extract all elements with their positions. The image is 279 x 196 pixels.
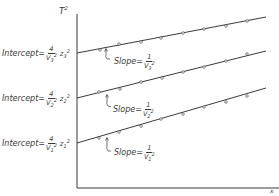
z-term: z22 <box>60 95 70 103</box>
intercept-fraction: 4V12 <box>46 136 57 151</box>
den-sup: 2 <box>54 52 57 58</box>
data-point-layer2 <box>182 71 185 74</box>
den-sup: 2 <box>151 108 154 114</box>
intercept-fraction: 4V22 <box>46 91 57 106</box>
slope-fraction: 1V32 <box>144 54 155 69</box>
equals-sign: = <box>135 105 142 114</box>
data-point-layer2 <box>246 53 249 56</box>
data-point-layer2 <box>140 81 143 84</box>
data-point-layer2 <box>119 88 122 91</box>
data-point-layer3 <box>182 32 185 35</box>
data-point-layer1 <box>118 131 121 134</box>
z-term: z32 <box>60 50 70 58</box>
fraction-denominator: V32 <box>46 54 57 61</box>
intercept-text: Intercept <box>2 49 38 58</box>
equals-sign: = <box>38 139 45 148</box>
x-axis-label: x <box>270 188 274 194</box>
equals-sign: = <box>38 94 45 103</box>
regression-line-layer1 <box>77 88 266 143</box>
data-point-layer2 <box>98 91 101 94</box>
data-point-layer1 <box>182 113 185 116</box>
intercept-label-layer1: Intercept=4V12z12 <box>2 136 70 151</box>
y-axis-label-exp: 2 <box>65 5 68 11</box>
data-point-layer3 <box>140 41 143 44</box>
z-term: z12 <box>60 140 70 148</box>
intercept-text: Intercept <box>2 139 38 148</box>
slope-arrow-layer1 <box>106 138 112 152</box>
z-sup: 2 <box>67 48 70 54</box>
data-point-layer3 <box>118 43 121 46</box>
data-point-layer3 <box>99 49 102 52</box>
den-sup: 2 <box>152 60 155 66</box>
slope-text: Slope <box>114 57 136 66</box>
data-point-layer1 <box>98 137 101 140</box>
x-axis-label-text: x <box>270 187 274 194</box>
den-sup: 2 <box>54 97 57 103</box>
slope-text: Slope <box>114 148 136 157</box>
data-point-layer3 <box>160 37 163 40</box>
intercept-fraction: 4V32 <box>46 46 57 61</box>
data-point-layer3 <box>203 28 206 31</box>
slope-fraction: 1V22 <box>143 102 154 117</box>
data-point-layer2 <box>225 60 228 63</box>
equals-sign: = <box>38 49 45 58</box>
equals-sign: = <box>136 148 143 157</box>
fraction-denominator: V12 <box>144 153 155 160</box>
data-point-layer1 <box>140 125 143 128</box>
regression-line-layer3 <box>77 17 266 53</box>
data-point-layer2 <box>161 77 164 80</box>
den-sup: 2 <box>152 151 155 157</box>
slope-arrow-layer2 <box>106 95 112 108</box>
z-sub: 2 <box>64 98 67 104</box>
slope-fraction: 1V12 <box>144 145 155 160</box>
z-sub: 3 <box>64 53 67 59</box>
slope-label-layer1: Slope=1V12 <box>114 145 156 160</box>
data-point-layer1 <box>203 106 206 109</box>
fraction-denominator: V32 <box>144 62 155 69</box>
z-sub: 1 <box>64 143 67 149</box>
data-point-layer3 <box>225 25 228 28</box>
regression-line-layer2 <box>77 51 266 98</box>
slope-arrow-layer3 <box>105 49 111 60</box>
fraction-denominator: V22 <box>46 99 57 106</box>
regression-lines <box>77 17 266 143</box>
intercept-label-layer2: Intercept=4V22z22 <box>2 91 70 106</box>
fraction-denominator: V12 <box>46 144 57 151</box>
z-sup: 2 <box>67 93 70 99</box>
data-point-layer1 <box>160 118 163 121</box>
data-point-layer2 <box>203 66 206 69</box>
intercept-text: Intercept <box>2 94 38 103</box>
data-point-layer1 <box>225 101 228 104</box>
data-point-layer3 <box>246 20 249 23</box>
intercept-label-layer3: Intercept=4V32z32 <box>2 46 70 61</box>
equals-sign: = <box>136 57 143 66</box>
fraction-denominator: V22 <box>143 110 154 117</box>
z-sup: 2 <box>67 138 70 144</box>
y-axis-label: T2 <box>59 7 68 16</box>
den-sup: 2 <box>54 142 57 148</box>
data-point-layer1 <box>246 95 249 98</box>
slope-label-layer2: Slope=1V22 <box>113 102 155 117</box>
slope-label-layer3: Slope=1V32 <box>114 54 156 69</box>
slope-text: Slope <box>113 105 135 114</box>
